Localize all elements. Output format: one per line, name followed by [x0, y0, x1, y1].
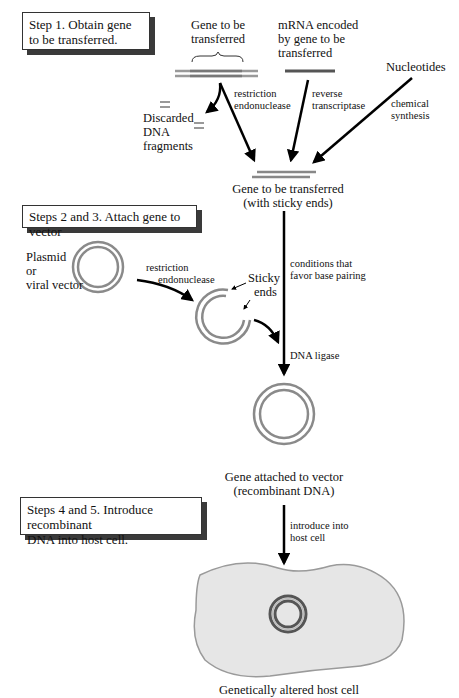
- sticky-gene-label: Gene to be transferred (with sticky ends…: [228, 182, 348, 210]
- mrna-label: mRNA encoded by gene to be transferred: [278, 18, 358, 60]
- restriction-endonuclease-label-1: restriction endonuclease: [234, 88, 291, 112]
- introduce-label: introduce into host cell: [290, 520, 349, 544]
- recombinant-dna-icon: [254, 384, 314, 444]
- step4-5-box: Steps 4 and 5. Introduce recombinant DNA…: [20, 497, 202, 535]
- gene-label: Gene to be transferred: [187, 18, 249, 46]
- reverse-transcriptase-label: reverse transcriptase: [312, 88, 365, 112]
- gene-dna-strand: [175, 71, 258, 76]
- plasmid-label: Plasmid or viral vector: [26, 250, 83, 292]
- arrow-mrna-to-sticky: [291, 80, 308, 160]
- chemical-synthesis-label: chemical synthesis: [391, 98, 430, 122]
- gene-brace: [192, 52, 243, 62]
- step1-box: Step 1. Obtain gene to be transferred.: [22, 12, 150, 50]
- conditions-label: conditions that favor base pairing: [290, 258, 366, 282]
- sticky-ends-label: Sticky ends: [248, 271, 280, 299]
- arrow-open-to-ligase: [254, 320, 278, 342]
- dna-ligase-label: DNA ligase: [290, 350, 339, 362]
- discarded-fragments-label: Discarded DNA fragments: [143, 111, 194, 153]
- step2-3-box: Steps 2 and 3. Attach gene to vector: [22, 205, 197, 228]
- host-cell-caption: Genetically altered host cell: [214, 683, 364, 697]
- restriction-endonuclease-label-2: restriction endonuclease: [146, 262, 215, 286]
- recombinant-label: Gene attached to vector (recombinant DNA…: [224, 470, 344, 498]
- arrow-to-discarded: [207, 83, 220, 112]
- step4-5-text-line1: Steps 4 and 5. Introduce recombinant: [27, 502, 195, 532]
- sticky-ended-gene: [252, 172, 316, 177]
- opened-plasmid-icon: [196, 290, 250, 344]
- nucleotides-label: Nucleotides: [386, 60, 446, 74]
- sticky-end-pointer-1: [232, 283, 246, 289]
- sticky-end-pointer-2: [244, 300, 250, 309]
- step4-5-text-line2: DNA into host cell.: [27, 532, 195, 547]
- step1-text: Step 1. Obtain gene to be transferred.: [29, 17, 132, 47]
